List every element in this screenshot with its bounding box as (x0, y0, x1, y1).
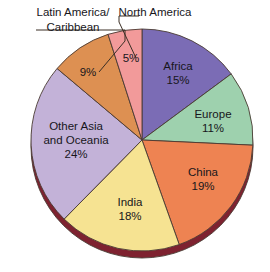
slice-percent-africa: 15% (166, 74, 189, 86)
slice-percent-europe: 11% (202, 122, 224, 134)
slice-label-europe: Europe (194, 108, 231, 120)
pie-chart-svg: Africa15%Europe11%China19%India18%Other … (0, 0, 270, 272)
slice-percent-north-america: 5% (123, 52, 140, 64)
slice-percent-other-asia-and-oceania: 24% (64, 148, 87, 160)
slice-label-africa: Africa (163, 60, 193, 72)
slice-percent-china: 19% (191, 180, 214, 192)
pie-chart-figure: Africa15%Europe11%China19%India18%Other … (0, 0, 270, 272)
slice-label-north-america: North America (119, 6, 192, 18)
slice-label-line2-latin-america-caribbean: Caribbean (46, 21, 99, 33)
slice-label-other-asia-and-oceania: Other Asia (49, 120, 103, 132)
slice-label-china: China (188, 166, 219, 178)
slice-percent-india: 18% (118, 210, 141, 222)
slice-label-latin-america-caribbean: Latin America/ (37, 6, 111, 18)
slice-label-india: India (118, 196, 144, 208)
slice-percent-latin-america-caribbean: 9% (80, 66, 97, 78)
slice-label-line2-other-asia-and-oceania: and Oceania (43, 134, 109, 146)
